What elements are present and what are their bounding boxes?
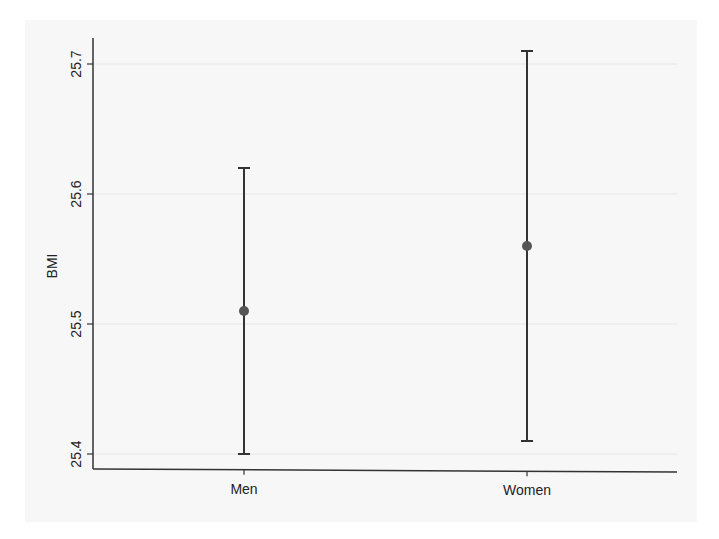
mean-marker xyxy=(239,306,249,316)
error-bar-women xyxy=(521,51,533,441)
error-bar-men xyxy=(238,168,250,454)
x-tick-label: Men xyxy=(230,481,257,497)
y-tick-label: 25.7 xyxy=(68,50,84,77)
y-tick-label: 25.6 xyxy=(68,180,84,207)
data-points xyxy=(238,51,533,454)
x-axis-line xyxy=(93,469,677,472)
y-axis-title: BMI xyxy=(44,254,60,279)
y-axis-ticks: 25.425.525.625.7 xyxy=(68,50,93,467)
mean-marker xyxy=(522,241,532,251)
gridlines xyxy=(93,64,677,454)
y-tick-label: 25.4 xyxy=(68,440,84,467)
error-bar-chart: 25.425.525.625.7 MenWomen BMI xyxy=(0,0,719,539)
x-axis-ticks: MenWomen xyxy=(230,470,551,498)
x-tick-label: Women xyxy=(503,482,551,498)
y-tick-label: 25.5 xyxy=(68,310,84,337)
